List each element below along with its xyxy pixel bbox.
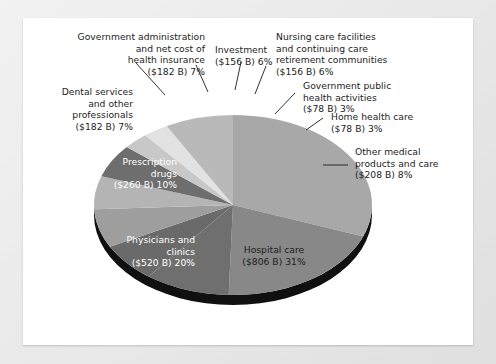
leader-line-home-health [306, 118, 323, 130]
leader-line-nursing [255, 66, 266, 94]
label-other-medical-products: Other medical products and care ($208 B)… [355, 146, 469, 181]
label-physicians-and-clinics: Physicians and clinics ($520 B) 20% [83, 234, 195, 269]
label-prescription-drugs: Prescription drugs ($260 B) 10% [81, 156, 177, 191]
label-nursing-care-facilities: Nursing care facilities and continuing c… [276, 31, 424, 77]
label-government-administration: Government administration and net cost o… [45, 31, 205, 77]
chart-panel: Government administration and net cost o… [23, 18, 473, 345]
pie-chart: Government administration and net cost o… [23, 18, 473, 345]
leader-line-gov-public [275, 93, 295, 114]
label-hospital-care: Hospital care ($806 B) 31% [219, 244, 329, 267]
label-dental-services: Dental services and other professionals … [31, 86, 133, 132]
screenshot-root: Government administration and net cost o… [0, 0, 496, 364]
label-home-health-care: Home health care ($78 B) 3% [331, 111, 461, 134]
label-government-public-health: Government public health activities ($78… [303, 80, 433, 115]
